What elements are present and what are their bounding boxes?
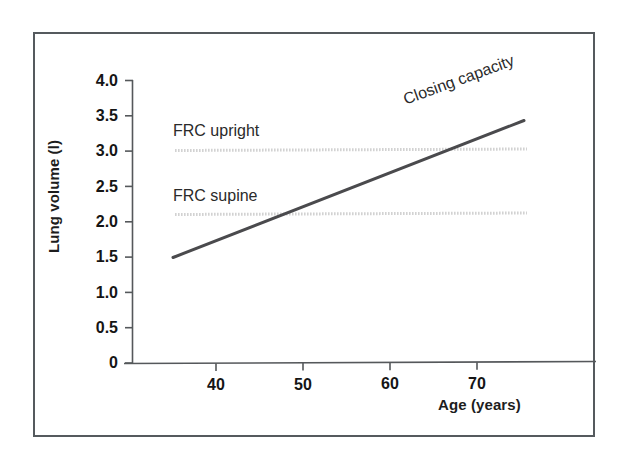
y-tick-label-0: 0 bbox=[72, 355, 118, 371]
y-tick-label-4-0: 4.0 bbox=[72, 73, 118, 89]
y-tick-label-0-5: 0.5 bbox=[72, 320, 118, 336]
frc-supine-label: FRC supine bbox=[173, 188, 257, 204]
y-tick-label-2-0: 2.0 bbox=[72, 214, 118, 230]
y-tick-label-1-0: 1.0 bbox=[72, 285, 118, 301]
x-axis-title: Age (years) bbox=[438, 396, 521, 413]
y-tick-label-3-0: 3.0 bbox=[72, 143, 118, 159]
frc-upright-label: FRC upright bbox=[173, 123, 259, 139]
x-tick-label-60: 60 bbox=[368, 376, 412, 392]
y-tick-label-1-5: 1.5 bbox=[72, 249, 118, 265]
x-tick-label-50: 50 bbox=[281, 377, 325, 393]
x-tick-label-40: 40 bbox=[194, 377, 238, 393]
y-axis-title: Lung volume (l) bbox=[45, 102, 62, 292]
y-tick-label-3-5: 3.5 bbox=[72, 108, 118, 124]
y-tick-label-2-5: 2.5 bbox=[72, 179, 118, 195]
x-tick-label-70: 70 bbox=[455, 376, 499, 392]
